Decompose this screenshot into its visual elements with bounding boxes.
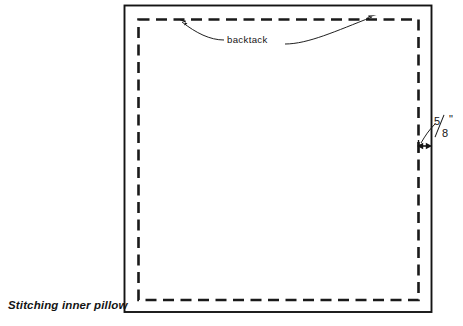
inch-mark: "	[449, 114, 453, 125]
seam-allowance-dimension-label: 5 8 "	[433, 114, 463, 148]
fraction-denominator: 8	[442, 128, 448, 139]
figure-stitching-inner-pillow: backtack 5 8 " Stitching inner pillow	[0, 0, 463, 326]
backtack-label: backtack	[227, 34, 268, 45]
stitch-line-dashed-rect	[139, 20, 419, 301]
backtack-leader-right	[285, 17, 372, 44]
fabric-panel-outline	[125, 6, 432, 313]
backtack-leader-left	[182, 22, 224, 40]
figure-caption: Stitching inner pillow	[8, 299, 128, 311]
diagram-canvas	[0, 0, 463, 326]
